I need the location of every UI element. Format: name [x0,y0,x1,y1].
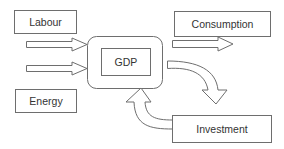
investment-node: Investment [172,115,272,143]
consumption-arrow-icon [173,37,234,51]
investment-label: Investment [196,123,247,135]
energy-arrow-icon [27,62,88,75]
investment-curved-arrow-icon [168,61,228,104]
consumption-label: Consumption [192,18,254,30]
labour-node: Labour [14,10,77,34]
consumption-node: Consumption [174,11,271,37]
labour-label: Labour [29,16,62,28]
feedback-curved-arrow-icon [126,88,173,129]
energy-node: Energy [15,89,77,113]
energy-label: Energy [29,95,62,107]
gdp-label: GDP [115,56,138,68]
gdp-node: GDP [101,48,151,76]
labour-arrow-icon [27,38,88,51]
